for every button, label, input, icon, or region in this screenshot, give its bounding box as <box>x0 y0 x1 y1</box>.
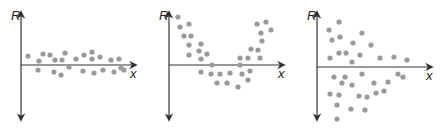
plot-random-band: R x <box>11 8 137 120</box>
plot-funnel: R x <box>307 8 433 122</box>
data-point <box>181 33 186 38</box>
data-point <box>198 41 203 46</box>
data-point <box>359 30 364 35</box>
data-point <box>235 84 240 89</box>
plot-u-shape: R x <box>159 8 285 120</box>
data-point <box>224 80 229 85</box>
data-point <box>395 71 400 76</box>
data-point <box>248 46 253 51</box>
x-axis-label: x <box>129 66 137 81</box>
data-point <box>336 19 341 24</box>
data-point <box>342 74 347 79</box>
data-point <box>247 68 252 73</box>
data-point <box>331 74 336 79</box>
data-point <box>175 14 180 19</box>
data-point <box>121 67 126 72</box>
data-point <box>329 37 334 42</box>
data-point <box>97 54 102 59</box>
data-point <box>209 62 214 67</box>
data-point <box>111 69 116 74</box>
data-point <box>381 88 386 93</box>
data-point <box>227 70 232 75</box>
data-point <box>89 49 94 54</box>
data-point <box>362 107 367 112</box>
data-point <box>108 57 113 62</box>
data-point <box>350 40 355 45</box>
data-point <box>59 57 64 62</box>
data-point <box>81 52 86 57</box>
data-points <box>175 14 273 89</box>
data-point <box>73 56 78 61</box>
data-point <box>336 92 341 97</box>
data-point <box>359 71 364 76</box>
residual-plots: R x R x R x <box>0 0 444 131</box>
data-point <box>385 79 390 84</box>
data-point <box>357 52 362 57</box>
data-point <box>337 34 342 39</box>
data-point <box>268 27 273 32</box>
data-point <box>368 42 373 47</box>
data-point <box>40 51 45 56</box>
data-point <box>36 58 41 63</box>
data-point <box>400 74 405 79</box>
data-point <box>237 62 242 67</box>
data-point <box>52 57 57 62</box>
data-point <box>343 50 348 55</box>
data-point <box>348 106 353 111</box>
data-point <box>334 102 339 107</box>
data-point <box>116 56 121 61</box>
data-point <box>349 59 354 64</box>
data-point <box>198 56 203 61</box>
data-point <box>404 57 409 62</box>
data-point <box>259 38 264 43</box>
y-axis-label: R <box>159 8 168 23</box>
data-point <box>373 90 378 95</box>
data-points <box>25 49 126 77</box>
data-point <box>217 71 222 76</box>
data-point <box>196 48 201 53</box>
data-points <box>326 19 409 121</box>
data-point <box>62 50 67 55</box>
data-point <box>239 71 244 76</box>
data-point <box>177 24 182 29</box>
data-point <box>51 69 56 74</box>
data-point <box>91 70 96 75</box>
y-axis-label: R <box>307 8 316 23</box>
data-point <box>214 80 219 85</box>
data-point <box>100 67 105 72</box>
data-point <box>204 51 209 56</box>
data-point <box>263 19 268 24</box>
data-point <box>186 42 191 47</box>
data-point <box>198 69 203 74</box>
data-point <box>339 80 344 85</box>
x-axis-label: x <box>425 68 433 83</box>
x-axis-label: x <box>277 66 285 81</box>
data-point <box>245 55 250 60</box>
data-point <box>25 53 30 58</box>
data-point <box>391 54 396 59</box>
data-point <box>336 50 341 55</box>
data-point <box>35 67 40 72</box>
data-point <box>257 55 262 60</box>
data-point <box>327 55 332 60</box>
data-point <box>371 80 376 85</box>
data-point <box>47 52 52 57</box>
data-point <box>186 21 191 26</box>
data-point <box>245 77 250 82</box>
data-point <box>80 68 85 73</box>
data-point <box>364 94 369 99</box>
data-point <box>66 64 71 69</box>
data-point <box>58 72 63 77</box>
data-point <box>349 82 354 87</box>
data-point <box>254 21 259 26</box>
data-point <box>356 93 361 98</box>
data-point <box>188 33 193 38</box>
data-point <box>377 55 382 60</box>
data-point <box>258 30 263 35</box>
y-axis-label: R <box>11 8 20 23</box>
data-point <box>186 52 191 57</box>
data-point <box>208 71 213 76</box>
data-point <box>327 91 332 96</box>
data-point <box>334 116 339 121</box>
data-point <box>89 56 94 61</box>
